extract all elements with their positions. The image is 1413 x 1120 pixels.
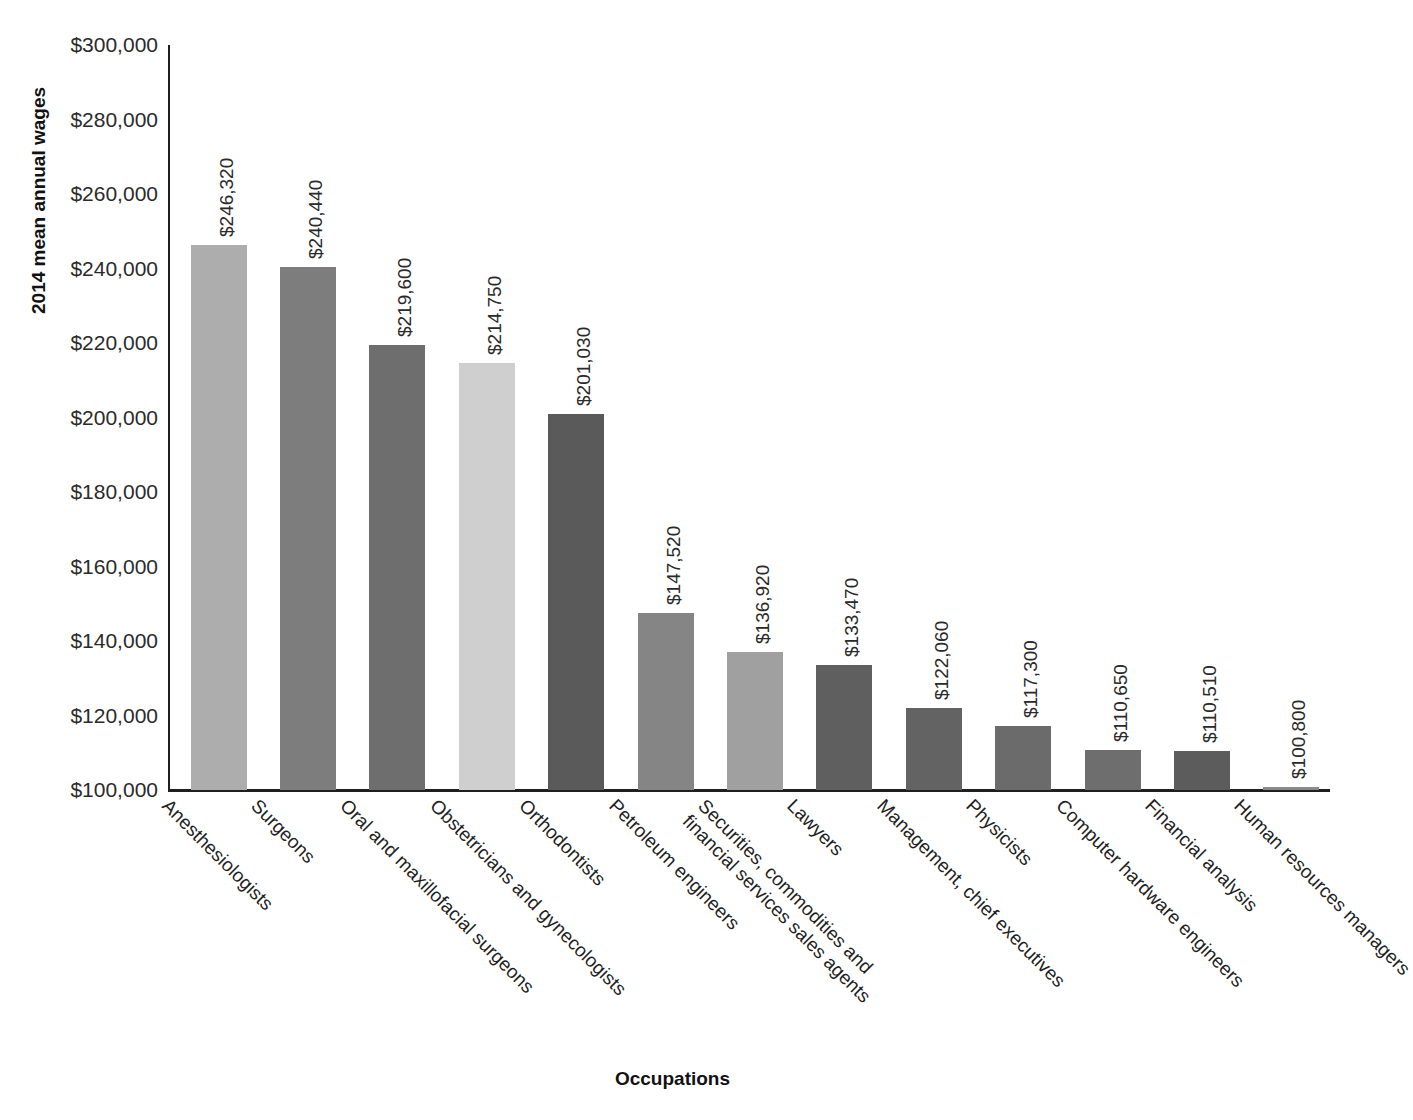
bar-value-label: $201,030 (573, 326, 595, 405)
x-axis-tick-label-line: Physicists (962, 795, 1037, 870)
x-axis-tick-labels: AnesthesiologistsSurgeonsOral and maxill… (168, 795, 1345, 1065)
bar: $110,510 (1174, 751, 1230, 790)
bar: $100,800 (1263, 787, 1319, 790)
bar-value-label: $219,600 (394, 257, 416, 336)
x-axis-tick-label: Physicists (961, 795, 1037, 871)
x-axis-tick-label-line: Lawyers (784, 795, 849, 860)
x-axis-tick-label: Management, chief executives (872, 795, 1069, 992)
y-axis-tick-label: $300,000 (60, 33, 158, 57)
bar: $136,920 (727, 652, 783, 790)
bar: $110,650 (1085, 750, 1141, 790)
plot-area: $246,320$240,440$219,600$214,750$201,030… (168, 45, 1330, 790)
y-axis-line (168, 45, 170, 790)
bar-value-label: $117,300 (1020, 640, 1042, 718)
x-axis-tick-label-line: Securities, commodities and (694, 795, 877, 978)
y-axis-tick-label: $220,000 (60, 331, 158, 355)
y-axis-tick-label: $200,000 (60, 406, 158, 430)
bar-value-label: $110,510 (1199, 665, 1221, 743)
x-axis-tick-label-line: Surgeons (247, 795, 319, 867)
bar-value-label: $246,320 (216, 158, 238, 237)
bar: $246,320 (191, 245, 247, 790)
y-axis-tick-label: $160,000 (60, 555, 158, 579)
bar-value-label: $110,650 (1110, 665, 1132, 743)
y-axis-tick-label: $260,000 (60, 182, 158, 206)
bar-value-label: $122,060 (931, 621, 953, 700)
y-axis-tick-label: $140,000 (60, 629, 158, 653)
bar: $219,600 (369, 345, 425, 791)
bar: $147,520 (638, 613, 694, 790)
bar: $201,030 (548, 414, 604, 790)
y-axis-tick-label: $100,000 (60, 778, 158, 802)
x-axis-tick-label: Oral and maxillofacial surgeons (336, 795, 539, 998)
x-axis-tick-label-line: Management, chief executives (873, 795, 1069, 991)
x-axis-tick-label: Orthodontists (514, 795, 610, 891)
bar-value-label: $240,440 (305, 180, 327, 259)
x-axis-tick-label-line: Oral and maxillofacial surgeons (337, 795, 539, 997)
bar: $133,470 (816, 665, 872, 790)
x-axis-title: Occupations (0, 1068, 1345, 1090)
x-axis-tick-label-line: Orthodontists (515, 795, 610, 890)
bar-value-label: $100,800 (1288, 700, 1310, 779)
x-axis-tick-label: Surgeons (246, 795, 319, 868)
x-axis-tick-label: Lawyers (783, 795, 849, 861)
x-axis-tick-label: Human resources managers (1229, 795, 1413, 980)
y-axis-tick-label: $240,000 (60, 257, 158, 281)
x-axis-tick-label: Obstetricians and gynecologists (425, 795, 631, 1001)
bar: $117,300 (995, 726, 1051, 790)
y-axis-title: 2014 mean annual wages (28, 0, 50, 314)
bar: $122,060 (906, 708, 962, 790)
x-axis-tick-label-line: Human resources managers (1230, 795, 1413, 979)
y-axis-tick-labels: $300,000$280,000$260,000$240,000$220,000… (60, 0, 158, 1120)
x-axis-tick-label: Computer hardware engineers (1051, 795, 1248, 992)
x-axis-tick-label-line: Computer hardware engineers (1052, 795, 1248, 991)
bar: $214,750 (459, 363, 515, 790)
bar: $240,440 (280, 267, 336, 790)
y-axis-tick-label: $180,000 (60, 480, 158, 504)
bar-value-label: $214,750 (484, 275, 506, 354)
bar-value-label: $136,920 (752, 565, 774, 644)
bar-value-label: $147,520 (663, 526, 685, 605)
y-axis-tick-label: $280,000 (60, 108, 158, 132)
y-axis-tick-label: $120,000 (60, 704, 158, 728)
bar-value-label: $133,470 (841, 578, 863, 657)
